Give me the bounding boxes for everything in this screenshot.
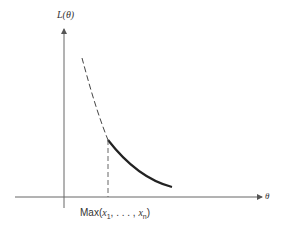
dashed-curve	[82, 58, 108, 140]
max-label: Max(x1, . . . , xn)	[80, 207, 150, 220]
solid-curve	[108, 140, 172, 187]
y-axis-label: L(θ)	[57, 9, 74, 20]
likelihood-diagram	[0, 0, 286, 233]
x-axis-label: θ	[265, 191, 269, 201]
